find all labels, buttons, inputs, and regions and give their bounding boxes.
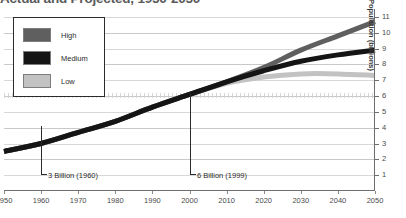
y-tick-mark — [375, 144, 379, 145]
chart-legend: High Medium Low — [13, 17, 105, 97]
x-tick-label: 1990 — [144, 196, 161, 205]
legend-swatch-high — [23, 28, 51, 42]
x-tick-label: 1970 — [70, 196, 87, 205]
x-tick-label: 1980 — [107, 196, 124, 205]
x-tick-label: 2020 — [255, 196, 272, 205]
annotation-label-1960: 3 Billion (1960) — [48, 171, 98, 180]
y-tick-mark — [375, 80, 379, 81]
y-tick-label: 3 — [382, 140, 386, 148]
y-tick-label: 10 — [382, 29, 390, 37]
y-tick-mark — [375, 159, 379, 160]
y-tick-label: 8 — [382, 60, 386, 68]
x-tick-label: 2000 — [181, 196, 198, 205]
y-tick-label: 9 — [382, 45, 386, 53]
x-tick-mark — [4, 191, 5, 194]
y-tick-mark — [375, 175, 379, 176]
x-tick-mark — [115, 191, 116, 194]
annotation-label-1999: 6 Billion (1999) — [197, 171, 247, 180]
legend-label-medium: Medium — [61, 54, 88, 63]
x-tick-label: 1960 — [33, 196, 50, 205]
y-tick-label: 2 — [382, 155, 386, 163]
legend-swatch-medium — [23, 51, 51, 65]
x-tick-mark — [227, 191, 228, 194]
annotation-leader-1960 — [41, 126, 42, 174]
x-tick-mark — [338, 191, 339, 194]
y-tick-label: 4 — [382, 124, 386, 132]
legend-swatch-low — [23, 74, 51, 88]
y-tick-label: 7 — [382, 76, 386, 84]
x-tick-mark — [301, 191, 302, 194]
annotation-leader-1999 — [190, 93, 191, 174]
x-tick-label: 2050 — [367, 196, 384, 205]
y-tick-mark — [375, 128, 379, 129]
x-tick-mark — [152, 191, 153, 194]
y-tick-mark — [375, 96, 379, 97]
chart-title: Actual and Projected, 1950-2050 — [0, 0, 200, 6]
x-tick-label: 2010 — [218, 196, 235, 205]
x-tick-mark — [41, 191, 42, 194]
x-tick-mark — [264, 191, 265, 194]
annotation-elbow-1999 — [190, 174, 196, 175]
legend-item-low: Low — [23, 74, 75, 88]
legend-label-high: High — [61, 31, 76, 40]
y-tick-label: 5 — [382, 108, 386, 116]
x-tick-mark — [190, 191, 191, 194]
x-tick-label: 2030 — [292, 196, 309, 205]
annotation-elbow-1960 — [41, 174, 47, 175]
y-axis-title: Population (billions) — [367, 0, 376, 71]
y-tick-label: 1 — [382, 171, 386, 179]
x-tick-label: 1950 — [0, 196, 12, 205]
legend-item-medium: Medium — [23, 51, 88, 65]
x-tick-label: 2040 — [330, 196, 347, 205]
legend-label-low: Low — [61, 77, 75, 86]
y-tick-label: 6 — [382, 92, 386, 100]
chart-container: Actual and Projected, 1950-2050 12345678… — [0, 0, 406, 218]
x-tick-mark — [375, 191, 376, 194]
legend-item-high: High — [23, 28, 76, 42]
y-tick-mark — [375, 112, 379, 113]
x-tick-mark — [78, 191, 79, 194]
y-tick-label: 11 — [382, 13, 390, 21]
